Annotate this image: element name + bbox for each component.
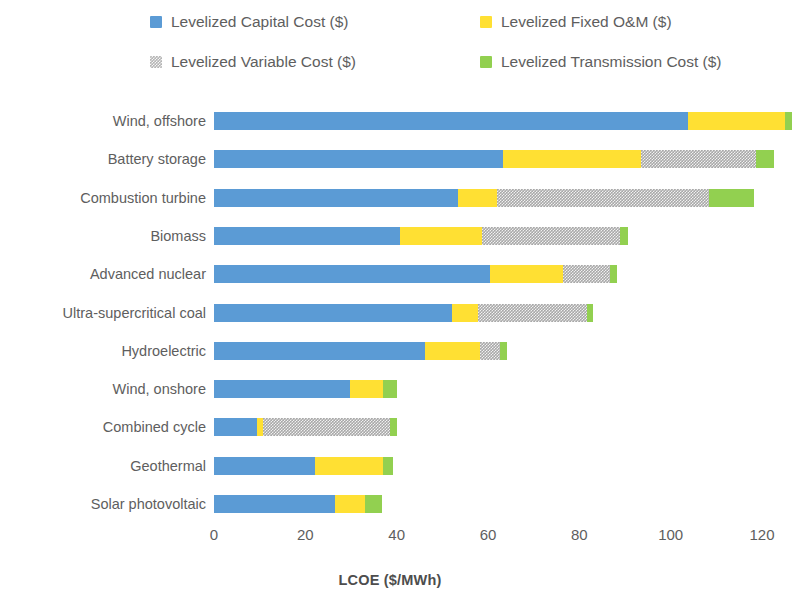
x-axis-tick-label: 40 — [388, 525, 405, 545]
bar-row[interactable] — [214, 495, 382, 513]
bar-segment-fixed[interactable] — [452, 304, 478, 322]
bar-row[interactable] — [214, 418, 397, 436]
bar-segment-transmission[interactable] — [785, 112, 792, 130]
bar-segment-variable[interactable] — [563, 265, 610, 283]
legend-item-fixed-om[interactable]: Levelized Fixed O&M ($) — [480, 14, 780, 30]
category-axis-labels: Wind, offshoreBattery storageCombustion … — [0, 100, 206, 510]
legend-swatch-transmission-icon — [480, 56, 492, 68]
category-label: Wind, onshore — [0, 380, 206, 398]
x-axis-tick-label: 120 — [749, 525, 774, 545]
bar-segment-capital[interactable] — [214, 495, 335, 513]
bar-segment-variable[interactable] — [478, 304, 587, 322]
bar-segment-fixed[interactable] — [503, 150, 640, 168]
bar-segment-capital[interactable] — [214, 304, 452, 322]
bar-segment-capital[interactable] — [214, 150, 503, 168]
chart-legend: Levelized Capital Cost ($) Levelized Fix… — [150, 2, 780, 82]
bar-segment-capital[interactable] — [214, 380, 350, 398]
bar-segment-fixed[interactable] — [688, 112, 785, 130]
category-label: Battery storage — [0, 150, 206, 168]
bar-segment-transmission[interactable] — [390, 418, 397, 436]
bar-segment-transmission[interactable] — [383, 457, 393, 475]
bar-row[interactable] — [214, 189, 754, 207]
legend-label-fixed-om: Levelized Fixed O&M ($) — [501, 14, 672, 30]
bar-segment-fixed[interactable] — [335, 495, 365, 513]
category-label: Hydroelectric — [0, 342, 206, 360]
legend-item-variable[interactable]: Levelized Variable Cost ($) — [150, 54, 480, 70]
legend-swatch-capital-icon — [150, 16, 162, 28]
bar-segment-variable[interactable] — [497, 189, 709, 207]
bar-segment-fixed[interactable] — [425, 342, 480, 360]
bar-segment-transmission[interactable] — [365, 495, 382, 513]
bar-segment-capital[interactable] — [214, 418, 257, 436]
bar-row[interactable] — [214, 342, 507, 360]
x-axis-tick-label: 20 — [297, 525, 314, 545]
legend-label-capital: Levelized Capital Cost ($) — [171, 14, 348, 30]
bar-row[interactable] — [214, 457, 393, 475]
category-label: Combined cycle — [0, 418, 206, 436]
bar-segment-variable[interactable] — [480, 342, 500, 360]
bar-segment-fixed[interactable] — [458, 189, 497, 207]
bar-row[interactable] — [214, 265, 617, 283]
bar-segment-fixed[interactable] — [350, 380, 383, 398]
legend-swatch-variable-icon — [150, 56, 162, 68]
category-label: Combustion turbine — [0, 189, 206, 207]
category-label: Biomass — [0, 227, 206, 245]
bar-segment-capital[interactable] — [214, 265, 490, 283]
bar-segment-transmission[interactable] — [610, 265, 617, 283]
x-axis-tick-label: 0 — [210, 525, 218, 545]
bar-segment-variable[interactable] — [263, 418, 389, 436]
plot-area: Wind, offshoreBattery storageCombustion … — [0, 100, 780, 510]
category-label: Wind, offshore — [0, 112, 206, 130]
bar-row[interactable] — [214, 227, 628, 245]
bar-row[interactable] — [214, 380, 397, 398]
bar-segment-fixed[interactable] — [315, 457, 383, 475]
bar-segment-capital[interactable] — [214, 227, 400, 245]
legend-swatch-fixed-om-icon — [480, 16, 492, 28]
x-axis-tick-label: 80 — [571, 525, 588, 545]
category-label: Ultra-supercritical coal — [0, 304, 206, 322]
bar-segment-capital[interactable] — [214, 112, 688, 130]
bar-segment-transmission[interactable] — [756, 150, 774, 168]
x-axis-ticks: 020406080100120 — [214, 525, 780, 551]
bar-segment-transmission[interactable] — [587, 304, 593, 322]
bar-segment-capital[interactable] — [214, 189, 458, 207]
legend-item-capital[interactable]: Levelized Capital Cost ($) — [150, 14, 480, 30]
bar-segment-variable[interactable] — [641, 150, 756, 168]
legend-item-transmission[interactable]: Levelized Transmission Cost ($) — [480, 54, 780, 70]
x-axis-tick-label: 100 — [658, 525, 683, 545]
bar-segment-transmission[interactable] — [383, 380, 397, 398]
x-axis-tick-label: 60 — [480, 525, 497, 545]
category-label: Advanced nuclear — [0, 265, 206, 283]
x-axis-title: LCOE ($/MWh) — [0, 572, 780, 588]
legend-label-transmission: Levelized Transmission Cost ($) — [501, 54, 722, 70]
bar-row[interactable] — [214, 112, 792, 130]
bar-segment-variable[interactable] — [482, 227, 620, 245]
legend-label-variable: Levelized Variable Cost ($) — [171, 54, 356, 70]
bar-segment-fixed[interactable] — [490, 265, 563, 283]
category-label: Solar photovoltaic — [0, 495, 206, 513]
bar-segment-transmission[interactable] — [620, 227, 628, 245]
bar-row[interactable] — [214, 304, 593, 322]
bar-segment-transmission[interactable] — [500, 342, 507, 360]
bar-segment-capital[interactable] — [214, 457, 315, 475]
bar-segment-capital[interactable] — [214, 342, 425, 360]
bar-segment-transmission[interactable] — [709, 189, 754, 207]
bar-segment-fixed[interactable] — [400, 227, 482, 245]
bar-series-container — [214, 100, 780, 510]
bar-row[interactable] — [214, 150, 774, 168]
category-label: Geothermal — [0, 457, 206, 475]
